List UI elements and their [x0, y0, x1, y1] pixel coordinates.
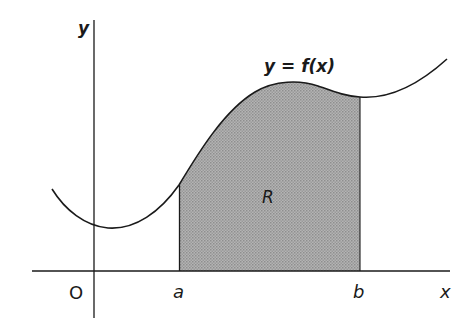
shaded-region-r [179, 82, 360, 271]
origin-label: O [69, 282, 83, 303]
upper-bound-label: b [353, 281, 364, 302]
lower-bound-label: a [173, 281, 184, 302]
region-label: R [262, 187, 274, 207]
curve-label: y = f(x) [264, 56, 335, 76]
area-under-curve-diagram: y y = f(x) R O a b x [0, 0, 475, 331]
y-axis-label: y [78, 18, 90, 38]
x-axis-label: x [439, 281, 451, 302]
